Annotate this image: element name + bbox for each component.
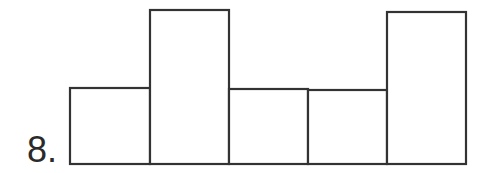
rect-5	[387, 12, 466, 164]
rect-3	[229, 89, 308, 164]
rect-4	[308, 90, 387, 164]
rect-1	[70, 88, 150, 164]
rectangle-figure	[0, 0, 489, 173]
rect-2	[150, 10, 229, 164]
